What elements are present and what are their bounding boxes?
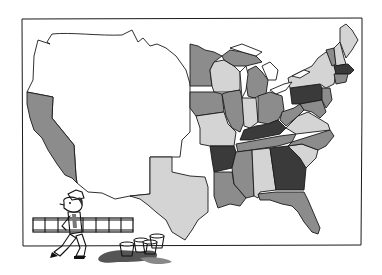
paint-spill [98, 250, 172, 264]
ladder [33, 218, 133, 232]
us-map-illustration: Map of the United States with states sha… [0, 0, 382, 275]
state-indiana [242, 98, 258, 128]
